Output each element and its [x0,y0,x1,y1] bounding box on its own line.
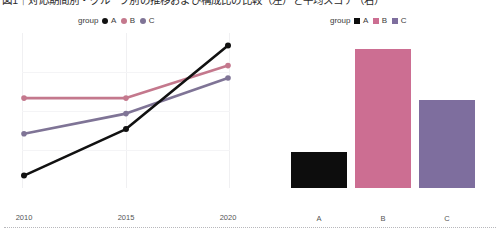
bar-chart-panel: group A B C A B C [255,11,500,215]
bar-a[interactable] [291,152,347,188]
legend-label-c: C [401,16,407,25]
legend-title: group [330,16,350,25]
line-chart-legend: group A B C [78,16,159,25]
xtick-2020: 2020 [220,213,237,222]
legend-marker-square-c [392,18,398,24]
figure-caption-text: 図1｜対応期間別・グループ別の推移および構成比の比較（左）と平均スコア（右） [2,0,384,7]
line-chart-panel: group A B C [0,11,255,215]
bar-b[interactable] [355,49,411,189]
legend-label-a: A [363,16,368,25]
xtick-c: C [444,214,449,223]
legend-label-b: B [382,16,387,25]
legend-item-b[interactable]: B [373,16,387,25]
legend-item-a[interactable]: A [354,16,368,25]
figure-caption-strip: 図1｜対応期間別・グループ別の推移および構成比の比較（左）と平均スコア（右） [0,0,500,11]
line-series-a [21,42,231,178]
legend-label-c: C [149,16,155,25]
legend-title: group [78,16,98,25]
xtick-2015: 2015 [118,213,135,222]
legend-marker-circle-c [140,18,146,24]
legend-label-a: A [111,16,116,25]
xtick-b: B [380,214,385,223]
bar-chart-legend: group A B C [330,16,411,25]
legend-marker-circle-a [102,18,108,24]
legend-item-c[interactable]: C [140,16,154,25]
bar-plot-area: A B C [285,33,481,188]
legend-marker-circle-b [121,18,127,24]
xtick-a: A [316,214,321,223]
bottom-dotted-divider [4,227,496,228]
legend-item-c[interactable]: C [392,16,406,25]
legend-marker-square-a [354,18,360,24]
line-series-svg [22,33,230,188]
xtick-2010: 2010 [16,213,33,222]
legend-item-b[interactable]: B [121,16,135,25]
bar-c[interactable] [419,100,475,188]
legend-marker-square-b [373,18,379,24]
line-plot-area: 2010 2015 2020 [22,33,230,188]
legend-label-b: B [130,16,135,25]
legend-item-a[interactable]: A [102,16,116,25]
